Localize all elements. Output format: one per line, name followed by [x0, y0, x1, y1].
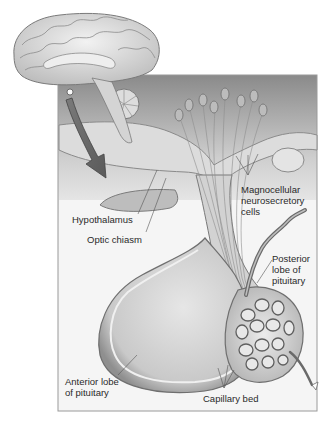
label-optic-chiasm: Optic chiasm: [87, 234, 142, 245]
label-magnocellular-neurosecretory-cells: Magnocellular neurosecretory cells: [241, 184, 304, 217]
inset-pituitary-marker: [67, 89, 73, 95]
mammillary-body: [272, 148, 304, 172]
label-magnocellular-line3: cells: [241, 206, 304, 217]
label-posterior-lobe-line3: pituitary: [272, 275, 310, 286]
label-posterior-lobe: Posterior lobe of pituitary: [272, 253, 310, 286]
label-anterior-lobe-line2: of pituitary: [65, 387, 119, 398]
label-posterior-lobe-line1: Posterior: [272, 253, 310, 264]
label-magnocellular-line2: neurosecretory: [241, 195, 304, 206]
label-hypothalamus-line1: Hypothalamus: [72, 214, 133, 225]
label-anterior-lobe-line1: Anterior lobe: [65, 376, 119, 387]
label-magnocellular-line1: Magnocellular: [241, 184, 304, 195]
label-optic-chiasm-line1: Optic chiasm: [87, 234, 142, 245]
label-capillary-bed: Capillary bed: [203, 393, 258, 404]
label-posterior-lobe-line2: lobe of: [272, 264, 310, 275]
label-hypothalamus: Hypothalamus: [72, 214, 133, 225]
label-capillary-bed-line1: Capillary bed: [203, 393, 258, 404]
label-anterior-lobe: Anterior lobe of pituitary: [65, 376, 119, 398]
